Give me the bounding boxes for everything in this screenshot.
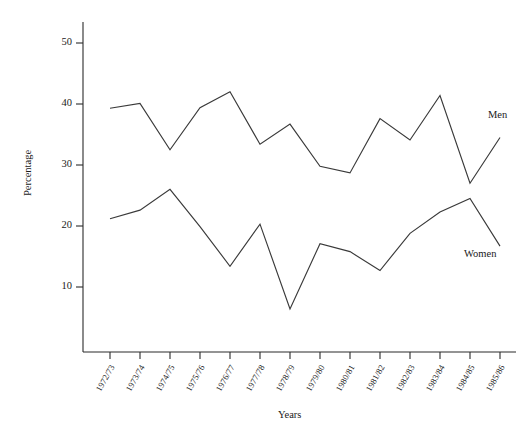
y-axis-ticks: [76, 43, 83, 287]
data-series-group: [110, 92, 500, 309]
line-chart-figure: 1020304050 1972/731973/741974/751975/761…: [0, 0, 532, 438]
y-tick-label: 20: [0, 219, 72, 230]
y-tick-label: 50: [0, 36, 72, 47]
series-line-men: [110, 92, 500, 184]
series-line-women: [110, 189, 500, 309]
series-label-women: Women: [464, 248, 496, 259]
y-tick-label: 30: [0, 158, 72, 169]
y-axis-title: Percentage: [22, 150, 33, 196]
chart-canvas: [0, 0, 532, 438]
axes-group: [83, 22, 516, 352]
x-axis-ticks: [110, 352, 500, 359]
series-label-men: Men: [488, 109, 507, 120]
x-axis-title: Years: [278, 409, 301, 420]
y-tick-label: 40: [0, 97, 72, 108]
y-tick-label: 10: [0, 280, 72, 291]
